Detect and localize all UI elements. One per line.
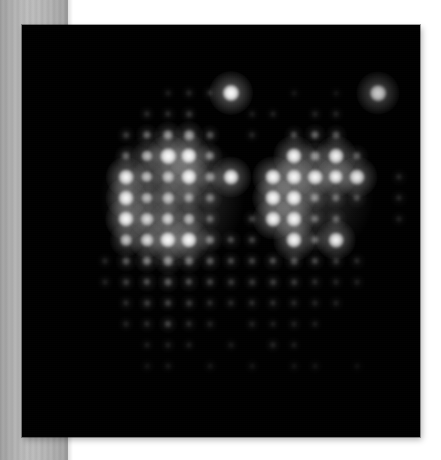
lattice-site: [354, 363, 361, 370]
lattice-site: [181, 148, 197, 164]
lattice-site-halo: [180, 315, 198, 333]
lattice-site: [164, 299, 172, 307]
lattice-site: [205, 193, 215, 203]
lattice-site: [248, 278, 256, 286]
lattice-site-halo: [201, 294, 219, 312]
lattice-site-halo: [160, 358, 176, 374]
lattice-site-halo: [307, 295, 324, 312]
lattice-site-halo: [301, 142, 329, 170]
lattice-site: [144, 342, 151, 349]
lattice-site-halo: [316, 220, 356, 260]
lattice-site-halo: [349, 358, 365, 374]
lattice-site-halo: [222, 294, 239, 311]
lattice-site: [310, 130, 319, 139]
lattice-site-halo: [304, 229, 327, 252]
lattice-site-halo: [130, 202, 165, 237]
lattice-site-halo: [105, 198, 147, 240]
lattice-site: [331, 193, 340, 202]
lattice-site: [118, 211, 134, 227]
lattice-site: [223, 169, 239, 185]
lattice-site: [265, 169, 281, 185]
lattice-site: [291, 363, 298, 370]
lattice-site-halo: [168, 156, 210, 198]
lattice-site: [269, 257, 277, 265]
lattice-site-halo: [221, 251, 241, 271]
lattice-site-halo: [131, 161, 162, 192]
lattice-site-halo: [197, 227, 222, 252]
lattice-site: [286, 148, 302, 164]
lattice-site: [248, 215, 256, 223]
lattice-site-halo: [325, 187, 348, 210]
lattice-site-halo: [196, 163, 224, 191]
lattice-site: [165, 342, 172, 349]
lattice-site-halo: [115, 250, 137, 272]
lattice-site-halo: [139, 337, 155, 353]
lattice-site: [161, 212, 174, 225]
lattice-site: [162, 129, 173, 140]
lattice-site: [141, 150, 153, 162]
lattice-site: [206, 131, 215, 140]
lattice-site-halo: [305, 251, 325, 271]
lattice-site: [165, 363, 172, 370]
lattice-site: [332, 257, 340, 265]
lattice-site-halo: [179, 272, 200, 293]
lattice-site: [311, 257, 319, 265]
lattice-site: [312, 321, 319, 328]
lattice-site: [290, 299, 297, 306]
lattice-site: [122, 299, 129, 306]
lattice-site-halo: [180, 294, 199, 313]
lattice-site-halo: [137, 272, 158, 293]
lattice-site: [122, 320, 129, 327]
lattice-site: [286, 190, 302, 206]
lattice-site-halo: [175, 121, 204, 150]
lattice-site-halo: [222, 273, 241, 292]
lattice-site-halo: [181, 337, 197, 353]
lattice-site-halo: [243, 273, 261, 291]
fluorescence-image-panel[interactable]: [22, 25, 420, 437]
lattice-site-halo: [199, 124, 220, 145]
lattice-site-halo: [273, 135, 315, 177]
lattice-site: [310, 235, 319, 244]
lattice-site: [248, 257, 256, 265]
lattice-site-halo: [356, 71, 399, 114]
lattice-site-halo: [307, 358, 323, 374]
lattice-site-halo: [264, 336, 281, 353]
lattice-site-halo: [390, 189, 408, 207]
lattice-site-halo: [159, 105, 177, 123]
lattice-site: [291, 321, 298, 328]
lattice-site-halo: [199, 250, 221, 272]
lattice-site-halo: [160, 337, 177, 354]
lattice-site-halo: [307, 316, 323, 332]
lattice-site: [142, 130, 151, 139]
lattice-site: [332, 110, 339, 117]
lattice-site: [205, 172, 216, 183]
lattice-site: [223, 85, 240, 102]
lattice-site: [185, 320, 192, 327]
lattice-site-halo: [134, 248, 159, 273]
lattice-site: [290, 131, 298, 139]
lattice-site: [395, 194, 402, 201]
lattice-site: [270, 321, 277, 328]
lattice-site-halo: [97, 253, 114, 270]
lattice-site: [354, 279, 361, 286]
lattice-site: [312, 363, 319, 370]
lattice-site-halo: [138, 105, 155, 122]
lattice-site-halo: [209, 71, 253, 115]
lattice-site-halo: [223, 337, 239, 353]
lattice-site: [184, 256, 194, 266]
right-cluster-glow: [255, 143, 375, 254]
lattice-site-halo: [244, 127, 261, 144]
lattice-site-halo: [242, 209, 261, 228]
lattice-site-halo: [347, 188, 368, 209]
lattice-site: [265, 190, 281, 206]
lattice-site-halo: [117, 126, 136, 145]
lattice-site: [349, 169, 365, 185]
lattice-site-halo: [265, 106, 281, 122]
lattice-site-halo: [132, 141, 163, 172]
lattice-site-halo: [200, 272, 219, 291]
atom-lattice-layer: [22, 25, 420, 437]
lattice-site: [122, 131, 130, 139]
lattice-site: [122, 257, 131, 266]
lattice-site: [291, 342, 298, 349]
lattice-site-halo: [286, 316, 303, 333]
